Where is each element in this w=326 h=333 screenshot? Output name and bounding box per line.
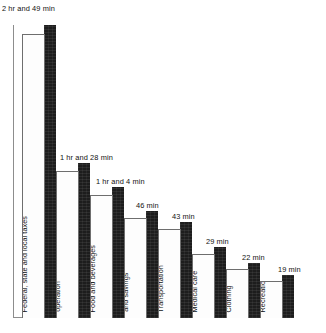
bar-category-label-line2: and savings — [124, 273, 131, 312]
bar-recreation: 19 min Recreation — [260, 274, 294, 318]
bar-category-label-line2: operation — [56, 281, 63, 312]
bar-side-face — [282, 275, 294, 318]
bar-category-label: Clothing — [226, 285, 233, 312]
bar-category-label: Recreation — [260, 281, 267, 312]
bar-front-face: Misc. expendituresand savings — [124, 218, 147, 318]
bar-transportation: 43 min Transportation — [158, 221, 192, 318]
bar-side-face — [146, 211, 158, 318]
bar-side-face — [248, 263, 260, 318]
bar-category-label: Food and beverages — [90, 245, 97, 312]
bar-side-face — [78, 163, 90, 318]
bar-category-label: Transportation — [158, 265, 165, 312]
bar-federal-state-and-local-taxes: 2 hr and 49 min Federal, state and local… — [22, 18, 56, 318]
bar-category-label: Federal, state and local taxes — [22, 216, 29, 312]
bar-value-label: 19 min — [278, 265, 301, 274]
bar-value-label: 1 hr and 4 min — [96, 177, 145, 186]
bar-side-face — [180, 222, 192, 318]
bar-front-face: Federal, state and local taxes — [22, 34, 45, 318]
bar-housing-and-household-operation: 1 hr and 28 min Housing and householdope… — [56, 162, 90, 318]
bar-side-face — [44, 25, 56, 318]
bar-clothing: 22 min Clothing — [226, 262, 260, 318]
bar-side-face — [112, 187, 124, 318]
bar-medical-care: 29 min Medical care — [192, 246, 226, 318]
bar-front-face: Medical care — [192, 254, 215, 318]
bar-food-and-beverages: 1 hr and 4 min Food and beverages — [90, 186, 124, 318]
y-axis-line — [13, 25, 14, 318]
bar-front-face: Transportation — [158, 229, 181, 318]
bar-front-face: Food and beverages — [90, 195, 113, 318]
bar-front-face: Clothing — [226, 269, 249, 318]
bar-value-label: 2 hr and 49 min — [2, 4, 55, 13]
bar-category-label: Housing and householdoperation — [56, 192, 63, 312]
bar-value-label: 22 min — [242, 253, 265, 262]
bar-front-face: Recreation — [260, 281, 283, 318]
bar-value-label: 46 min — [136, 201, 159, 210]
bar-front-face: Housing and householdoperation — [56, 171, 79, 318]
bar-category-label: Misc. expendituresand savings — [124, 218, 131, 312]
bar-value-label: 1 hr and 28 min — [60, 153, 113, 162]
bar-chart: 2 hr and 49 min Federal, state and local… — [0, 0, 326, 333]
bar-value-label: 29 min — [206, 237, 229, 246]
bar-side-face — [214, 247, 226, 318]
bar-misc-expenditures-and-savings: 46 min Misc. expendituresand savings — [124, 210, 158, 318]
bar-category-label: Medical care — [192, 270, 199, 312]
bar-value-label: 43 min — [172, 212, 195, 221]
